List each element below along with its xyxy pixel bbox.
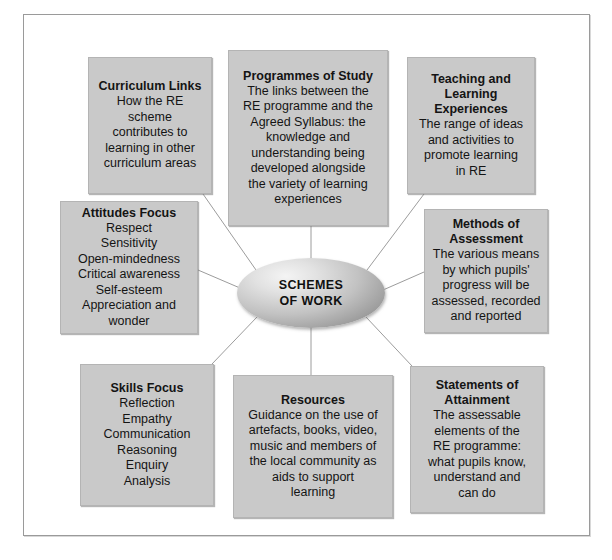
connector-statements (366, 317, 412, 366)
node-body: The assessable elements of the RE progra… (428, 408, 526, 501)
centre-node-label: SCHEMES OF WORK (279, 277, 344, 309)
node-body: The links between the RE programme and t… (243, 84, 373, 208)
node-body: Respect Sensitivity Open-mindedness Crit… (78, 221, 180, 330)
node-title: Statements of Attainment (436, 378, 519, 408)
node-skills-focus[interactable]: Skills Focus Reflection Empathy Communic… (80, 364, 214, 506)
node-title: Teaching and Learning Experiences (431, 72, 511, 117)
node-teaching-and-learning-experiences[interactable]: Teaching and Learning Experiences The ra… (407, 57, 535, 194)
node-title: Resources (281, 393, 345, 408)
node-body: The various means by which pupils' progr… (431, 247, 540, 325)
node-title: Curriculum Links (99, 79, 202, 94)
connector-attitudes (198, 270, 240, 288)
node-title: Methods of Assessment (449, 217, 523, 247)
node-resources[interactable]: Resources Guidance on the use of artefac… (233, 375, 393, 518)
node-body: The range of ideas and activities to pro… (419, 117, 523, 179)
node-title: Attitudes Focus (82, 206, 176, 221)
node-curriculum-links[interactable]: Curriculum Links How the RE scheme contr… (88, 57, 212, 194)
node-methods-of-assessment[interactable]: Methods of Assessment The various means … (424, 209, 548, 333)
centre-node-schemes-of-work[interactable]: SCHEMES OF WORK (237, 258, 385, 328)
connector-skills (212, 317, 257, 364)
node-programmes-of-study[interactable]: Programmes of Study The links between th… (228, 50, 388, 226)
node-title: Skills Focus (111, 381, 184, 396)
node-statements-of-attainment[interactable]: Statements of Attainment The assessable … (410, 366, 544, 513)
connector-methods (383, 272, 424, 290)
node-body: How the RE scheme contributes to learnin… (104, 94, 196, 172)
node-title: Programmes of Study (243, 69, 373, 84)
node-body: Reflection Empathy Communication Reasoni… (104, 396, 191, 489)
node-attitudes-focus[interactable]: Attitudes Focus Respect Sensitivity Open… (60, 201, 198, 334)
diagram-page: Curriculum Links How the RE scheme contr… (0, 0, 612, 560)
node-body: Guidance on the use of artefacts, books,… (248, 408, 377, 501)
